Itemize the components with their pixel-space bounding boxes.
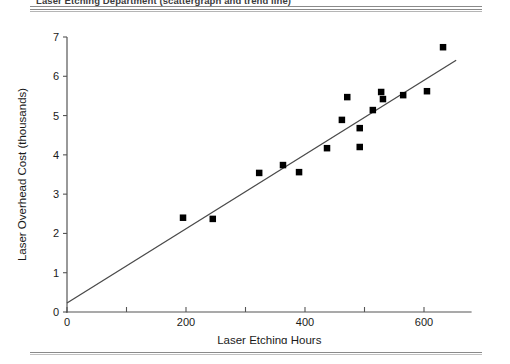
data-point [344,94,351,101]
data-point [339,117,346,124]
y-tick-label: 3 [53,188,59,200]
data-point [378,89,385,96]
data-point [356,144,363,151]
y-tick-label: 2 [53,227,59,239]
data-point-series [180,44,447,222]
y-tick-label: 5 [53,110,59,122]
data-point [400,92,407,99]
scatter-plot: 01234567 0200400600 Laser Etching Hours … [0,14,510,344]
footer-rule-top [30,352,482,353]
data-point [256,170,263,177]
data-point [280,162,287,169]
y-tick-labels: 01234567 [53,31,59,318]
x-tick-label: 400 [296,316,314,328]
data-point [440,44,447,51]
y-tick-label: 7 [53,31,59,43]
trend-line [67,60,456,303]
x-tick-labels: 0200400600 [64,316,433,328]
data-point [356,125,363,131]
y-tick-label: 6 [53,70,59,82]
data-point [324,145,331,152]
y-tick-label: 4 [53,149,59,161]
chart-canvas: 01234567 0200400600 Laser Etching Hours … [0,14,510,344]
x-tick-label: 600 [415,316,433,328]
scattergraph-page: Laser Etching Department (scattergraph a… [0,0,510,364]
data-point [424,88,431,95]
x-axis [66,307,472,312]
y-axis [63,37,67,313]
data-point [180,214,187,221]
x-tick-label: 0 [64,316,70,328]
x-axis-title: Laser Etching Hours [217,334,321,344]
y-axis-title: Laser Overhead Cost (thousands) [16,88,28,261]
header-rule-top [30,6,482,7]
header-rule-middle [30,9,482,10]
x-tick-label: 200 [177,316,195,328]
header-rule-bottom [30,11,482,12]
y-tick-label: 1 [53,267,59,279]
data-point [380,96,387,103]
footer-rule-bottom [30,354,482,355]
regression-line [67,60,456,303]
y-tick-label: 0 [53,306,59,318]
data-point [296,169,303,176]
data-point [370,107,377,114]
data-point [210,216,217,223]
